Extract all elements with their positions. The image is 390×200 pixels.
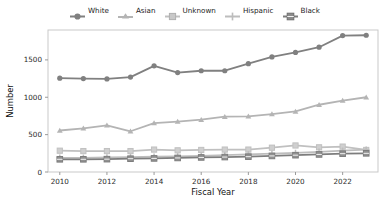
y-tick-label: 1000 [24,93,43,102]
y-axis-ticks: 050010001500 [24,55,48,176]
x-tick-label: 2020 [286,177,305,186]
x-tick-label: 2014 [145,177,164,186]
line-chart: White Asian Unknown [0,0,390,200]
x-tick-label: 2012 [98,177,116,186]
x-tick-label: 2010 [51,177,70,186]
plot-area: 050010001500 201020122014201620182020202… [0,0,390,200]
y-tick-label: 1500 [24,55,43,64]
x-tick-label: 2022 [333,177,351,186]
x-axis-ticks: 2010201220142016201820202022 [51,172,352,186]
x-axis-title: Fiscal Year [191,187,235,197]
y-tick-label: 500 [28,130,42,139]
y-tick-label: 0 [37,168,42,177]
x-tick-label: 2018 [239,177,258,186]
y-axis-title: Number [5,84,15,118]
x-tick-label: 2016 [192,177,211,186]
